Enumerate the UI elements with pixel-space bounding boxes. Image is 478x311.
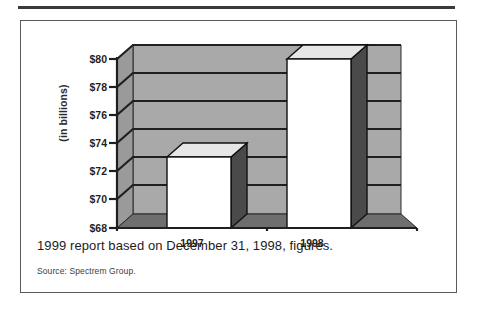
- y-axis-title: (in billions): [57, 53, 69, 173]
- bar-chart: $80 $78 $76 $74 $72 $70 $68 1997 1998 (i…: [21, 21, 458, 231]
- figure-caption: 1999 report based on December 31, 1998, …: [37, 238, 333, 253]
- x-axis-tick-labels: 1997 1998: [21, 21, 458, 231]
- figure-frame: $80 $78 $76 $74 $72 $70 $68 1997 1998 (i…: [20, 20, 457, 293]
- top-divider-rule: [18, 6, 455, 9]
- figure-source: Source: Spectrem Group.: [37, 266, 136, 276]
